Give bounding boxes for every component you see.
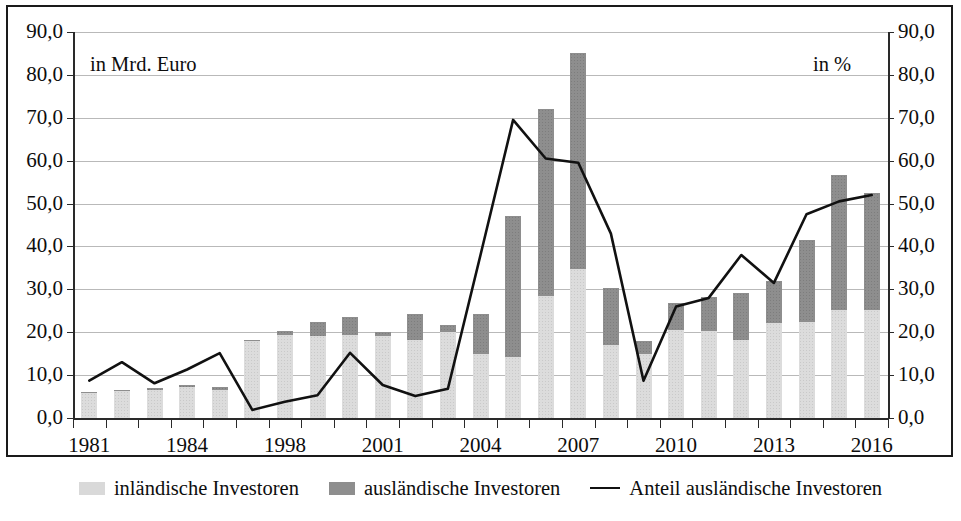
right-unit-annotation: in %: [813, 54, 851, 75]
chart-legend: inländische Investoren ausländische Inve…: [0, 468, 961, 508]
legend-label-inlaendische: inländische Investoren: [114, 478, 299, 499]
chart-root: 0,00,010,010,020,020,030,030,040,040,050…: [0, 0, 961, 521]
legend-swatch-light-gray-icon: [79, 482, 105, 495]
legend-item-auslaendische: ausländische Investoren: [329, 478, 560, 499]
legend-swatch-dark-gray-icon: [329, 482, 355, 495]
plot-area: 0,00,010,010,020,020,030,030,040,040,050…: [0, 0, 961, 521]
legend-item-inlaendische: inländische Investoren: [79, 478, 299, 499]
legend-label-anteil: Anteil ausländische Investoren: [629, 478, 882, 499]
left-unit-annotation: in Mrd. Euro: [90, 54, 196, 75]
legend-label-auslaendische: ausländische Investoren: [364, 478, 560, 499]
line-anteil-auslaendische-investoren: [89, 120, 871, 410]
line-series-layer: [0, 0, 961, 521]
legend-line-marker-icon: [590, 487, 620, 489]
legend-item-anteil: Anteil ausländische Investoren: [590, 478, 882, 499]
